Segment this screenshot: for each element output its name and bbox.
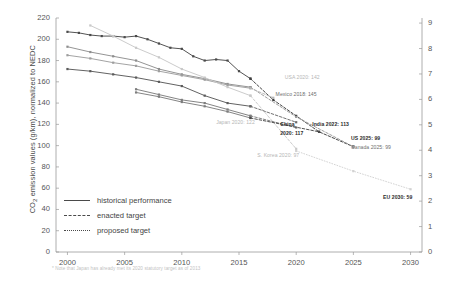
y-tick-right: 8 xyxy=(428,44,458,53)
y-tick-left: 160 xyxy=(20,77,50,86)
legend-line-dotted-icon xyxy=(64,227,90,235)
y-tick-left: 60 xyxy=(20,183,50,192)
chart-legend: historical performance enacted target pr… xyxy=(64,193,172,238)
chart-annotation: Japan 2020: 122 xyxy=(216,119,255,125)
x-tick: 2015 xyxy=(219,258,259,267)
chart-annotation: Mexico 2018: 145 xyxy=(276,91,317,97)
y-tick-right: 1 xyxy=(428,222,458,231)
y-tick-left: 120 xyxy=(20,119,50,128)
legend-label: enacted target xyxy=(97,211,146,220)
chart-annotation: US 2025: 99 xyxy=(351,135,380,141)
y-tick-right: 7 xyxy=(428,69,458,78)
legend-item-proposed-target: proposed target xyxy=(64,223,172,238)
chart-annotation: India 2022: 113 xyxy=(312,121,349,127)
x-tick: 2025 xyxy=(333,258,373,267)
chart-annotation: 2020: 117 xyxy=(280,130,303,136)
legend-line-solid-icon xyxy=(64,197,90,205)
y-tick-right: 2 xyxy=(428,196,458,205)
y-tick-left: 200 xyxy=(20,34,50,43)
plot-area xyxy=(0,0,474,288)
legend-label: historical performance xyxy=(97,196,172,205)
y-tick-left: 0 xyxy=(20,247,50,256)
y-tick-left: 140 xyxy=(20,98,50,107)
chart-annotation: USA 2020: 142 xyxy=(285,74,320,80)
y-tick-left: 20 xyxy=(20,226,50,235)
legend-line-dashed-icon xyxy=(64,212,90,220)
legend-item-enacted-target: enacted target xyxy=(64,208,172,223)
chart-root: CO2 emission values (g/km), normalized t… xyxy=(0,0,474,288)
y-tick-left: 80 xyxy=(20,162,50,171)
chart-footnote: * Note that Japan has already met its 20… xyxy=(52,266,200,271)
y-tick-right: 6 xyxy=(428,94,458,103)
legend-item-historical-performance: historical performance xyxy=(64,193,172,208)
y-tick-left: 40 xyxy=(20,204,50,213)
y-tick-right: 5 xyxy=(428,120,458,129)
y-tick-right: 3 xyxy=(428,171,458,180)
y-tick-left: 220 xyxy=(20,13,50,22)
y-tick-left: 100 xyxy=(20,141,50,150)
x-tick: 2030 xyxy=(391,258,431,267)
legend-label: proposed target xyxy=(97,226,150,235)
chart-annotation: China xyxy=(280,121,294,127)
chart-annotation: EU 2030: 59 xyxy=(383,194,412,200)
chart-annotation: S. Korea 2020: 97 xyxy=(257,152,299,158)
chart-annotation: Canada 2025: 99 xyxy=(351,144,391,150)
y-tick-left: 180 xyxy=(20,56,50,65)
y-tick-right: 4 xyxy=(428,145,458,154)
y-tick-right: 9 xyxy=(428,18,458,27)
y-tick-right: 0 xyxy=(428,247,458,256)
x-tick: 2020 xyxy=(276,258,316,267)
